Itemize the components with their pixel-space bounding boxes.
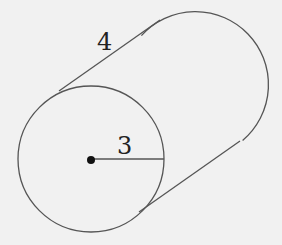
center-dot [87,156,95,164]
length-label: 4 [97,28,112,56]
cylinder-diagram: 4 3 [0,0,282,245]
bottom-tangent-line [139,141,240,212]
back-circle-arc [141,12,268,141]
radius-label: 3 [117,132,132,160]
